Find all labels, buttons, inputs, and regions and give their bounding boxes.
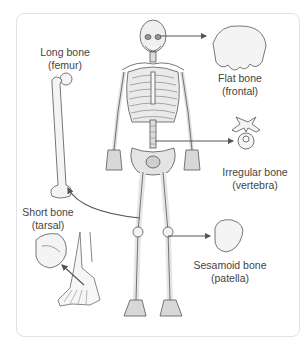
label-long-bone-name: Long bone — [37, 46, 93, 59]
frontal-bone-icon — [213, 26, 266, 70]
tarsal-icon — [36, 234, 66, 268]
label-short-bone-name: Short bone — [18, 206, 78, 219]
label-sesamoid-bone-name: Sesamoid bone — [190, 259, 270, 272]
label-short-bone-example: (tarsal) — [18, 219, 78, 232]
label-flat-bone-name: Flat bone — [210, 72, 270, 85]
label-irregular-bone-example: (vertebra) — [220, 179, 290, 192]
label-irregular-bone: Irregular bone (vertebra) — [220, 166, 290, 192]
label-long-bone-example: (femur) — [37, 59, 93, 72]
arrow-to-long-bone — [68, 188, 140, 218]
label-short-bone: Short bone (tarsal) — [18, 206, 78, 232]
patella-icon — [215, 220, 243, 252]
label-flat-bone-example: (frontal) — [210, 85, 270, 98]
label-sesamoid-bone: Sesamoid bone (patella) — [190, 259, 270, 285]
vertebra-icon — [232, 117, 260, 149]
femur-icon — [51, 73, 72, 198]
label-sesamoid-bone-example: (patella) — [190, 272, 270, 285]
label-long-bone: Long bone (femur) — [37, 46, 93, 72]
label-flat-bone: Flat bone (frontal) — [210, 72, 270, 98]
label-irregular-bone-name: Irregular bone — [220, 166, 290, 179]
skeleton-figure — [106, 20, 200, 316]
